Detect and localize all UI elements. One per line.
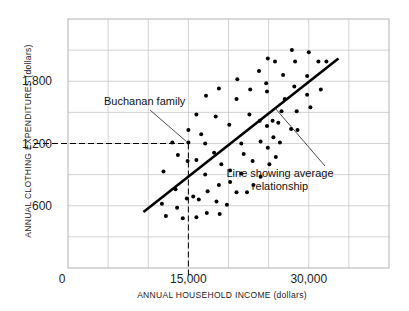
data-point (164, 214, 168, 218)
data-point (271, 119, 275, 123)
data-point (191, 194, 195, 198)
data-point (239, 142, 243, 146)
buchanan-guide-lines (34, 144, 188, 279)
data-point (265, 124, 269, 128)
data-point (214, 115, 218, 119)
data-point (245, 190, 249, 194)
data-point (204, 94, 208, 98)
y-axis-label: ANNUAL CLOTHING EXPENDITURES (dollars) (23, 44, 33, 237)
data-point (247, 112, 251, 116)
data-point (225, 203, 229, 207)
data-point (206, 189, 210, 193)
data-point (228, 180, 232, 184)
data-point (175, 206, 179, 210)
data-point (266, 146, 270, 150)
data-point (276, 121, 280, 125)
data-point (251, 159, 255, 163)
data-point (203, 173, 207, 177)
data-point (194, 158, 198, 162)
data-point (248, 88, 252, 92)
data-point (290, 48, 294, 52)
data-point (292, 84, 296, 88)
data-point (197, 198, 201, 202)
data-point (203, 142, 207, 146)
data-point (235, 77, 239, 81)
data-point (281, 73, 285, 77)
data-point (267, 162, 271, 166)
data-point (170, 141, 174, 145)
data-point (295, 109, 299, 113)
data-point (271, 135, 275, 139)
data-point (305, 74, 309, 78)
scatter-chart: 6001,2001,800 15,00030,000 0 Buchanan fa… (0, 0, 409, 311)
data-point (186, 141, 190, 145)
data-point (185, 197, 189, 201)
data-point (181, 216, 185, 220)
data-point (305, 93, 309, 97)
data-point (160, 202, 164, 206)
data-point (205, 211, 209, 215)
data-point (242, 152, 246, 156)
x-tick-label: 30,000 (290, 272, 327, 286)
x-tick-label: 15,000 (170, 272, 207, 286)
data-point (219, 162, 223, 166)
data-point (186, 128, 190, 132)
data-point (324, 60, 328, 64)
data-point (162, 170, 166, 174)
origin-label: 0 (59, 272, 66, 286)
data-point (307, 50, 311, 54)
data-point (308, 105, 312, 109)
data-point (274, 155, 278, 159)
data-point (217, 183, 221, 187)
data-point (176, 153, 180, 157)
data-point (259, 139, 263, 143)
data-point (194, 215, 198, 219)
data-point (278, 141, 282, 145)
data-point (319, 88, 323, 92)
data-point (235, 190, 239, 194)
annotation-trend-line-1: Line showing average (226, 167, 333, 179)
data-point (257, 69, 261, 73)
data-point (199, 132, 203, 136)
data-point (264, 81, 268, 85)
buchanan-leader-line (150, 110, 186, 142)
y-tick-label: 600 (32, 199, 52, 213)
data-point (273, 60, 277, 64)
data-point (217, 87, 221, 91)
data-point (215, 200, 219, 204)
data-point (289, 127, 293, 131)
annotation-buchanan-family: Buchanan family (104, 95, 186, 107)
data-point (265, 90, 269, 94)
data-point (296, 128, 300, 132)
x-axis-ticks: 15,00030,000 (170, 272, 327, 286)
data-point (186, 159, 190, 163)
data-point (194, 112, 198, 116)
data-point (235, 97, 239, 101)
data-point (293, 60, 297, 64)
x-axis-label: ANNUAL HOUSEHOLD INCOME (dollars) (137, 290, 307, 300)
data-point (280, 109, 284, 113)
trend-leader-line (275, 108, 325, 166)
data-point (218, 212, 222, 216)
annotation-trend-line-2: relationship (252, 180, 308, 192)
data-point (266, 56, 270, 60)
data-point (316, 60, 320, 64)
data-point (227, 123, 231, 127)
